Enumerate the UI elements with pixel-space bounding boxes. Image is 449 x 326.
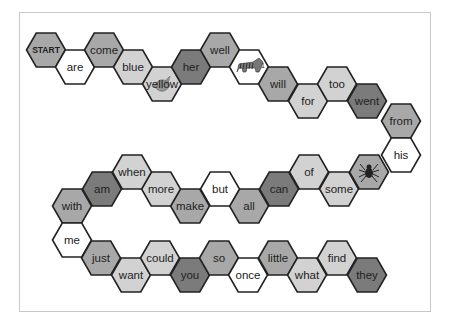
space-label: his xyxy=(394,149,409,161)
space-label: can xyxy=(270,183,289,195)
board-space-his: his xyxy=(382,138,421,172)
space-label: more xyxy=(148,183,174,195)
space-label: too xyxy=(329,78,345,90)
space-label: little xyxy=(268,252,288,264)
space-label: are xyxy=(67,61,84,73)
space-label: some xyxy=(325,183,353,195)
space-label: could xyxy=(146,252,174,264)
space-label: went xyxy=(354,95,380,107)
space-label: of xyxy=(304,166,314,178)
space-label: will xyxy=(269,78,286,90)
space-label: find xyxy=(328,252,347,264)
space-label: but xyxy=(212,183,229,195)
space-label: just xyxy=(91,252,111,264)
space-label: you xyxy=(181,269,200,281)
space-label: her xyxy=(183,61,200,73)
game-board: STARTarecomeblueyellowherwell1willfortoo… xyxy=(0,0,449,326)
space-label: with xyxy=(61,200,82,212)
space-label: want xyxy=(118,269,144,281)
space-label: so xyxy=(213,252,225,264)
board-space-from: from xyxy=(382,104,421,138)
space-label: what xyxy=(294,269,320,281)
space-label: come xyxy=(90,44,118,56)
space-label: well xyxy=(209,44,230,56)
space-label: yellow xyxy=(146,78,179,90)
space-label: all xyxy=(243,200,255,212)
space-label: blue xyxy=(122,61,144,73)
space-label: when xyxy=(117,166,146,178)
space-label: once xyxy=(236,269,261,281)
space-label: am xyxy=(94,183,110,195)
svg-text:1: 1 xyxy=(261,62,265,69)
space-label: START xyxy=(32,45,61,55)
space-label: make xyxy=(176,200,204,212)
space-label: from xyxy=(390,115,413,127)
space-label: me xyxy=(64,234,80,246)
space-label: for xyxy=(301,95,315,107)
space-label: they xyxy=(356,269,378,281)
